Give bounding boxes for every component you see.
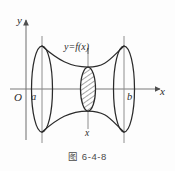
curve-lower: [42, 111, 124, 132]
label-a: a: [31, 91, 36, 102]
x-axis-label: x: [159, 85, 165, 97]
figure-container: y x O a b x y=f(x) 图 6-4-8: [0, 0, 175, 171]
label-b: b: [127, 91, 132, 102]
solid-of-revolution-diagram: y x O a b x y=f(x): [0, 0, 175, 171]
label-x-variable: x: [84, 128, 90, 138]
y-axis-label: y: [16, 14, 22, 26]
cross-section-x-hatched: [81, 67, 96, 111]
figure-caption: 图 6-4-8: [0, 149, 175, 163]
origin-label: O: [14, 91, 22, 103]
curve-label: y=f(x): [63, 41, 90, 53]
